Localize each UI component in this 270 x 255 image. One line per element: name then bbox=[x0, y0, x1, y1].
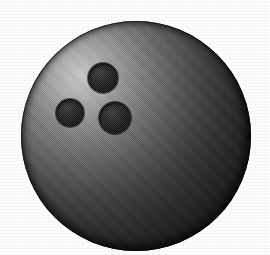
finger-hole-thumb bbox=[99, 102, 131, 134]
finger-hole-top bbox=[88, 63, 118, 93]
finger-hole-top-dither bbox=[88, 63, 118, 93]
illustration-canvas bbox=[0, 0, 270, 255]
ball-sphere-surface bbox=[21, 21, 251, 251]
finger-hole-left-dither bbox=[56, 99, 84, 127]
bowling-ball bbox=[21, 21, 251, 251]
finger-hole-left bbox=[56, 99, 84, 127]
finger-hole-thumb-dither bbox=[99, 102, 131, 134]
